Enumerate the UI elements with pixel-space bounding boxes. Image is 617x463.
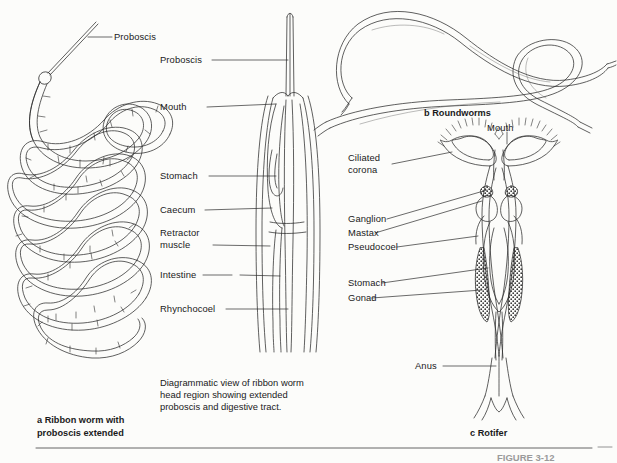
label-rotifer-pseudocoel: Pseudocoel <box>348 241 398 252</box>
label-rotifer-ciliated: Ciliated <box>348 152 380 163</box>
label-head-caecum: Caecum <box>160 204 196 215</box>
figure-artwork <box>0 0 617 463</box>
label-rotifer-corona: corona <box>348 164 377 175</box>
head-region-leaders <box>203 60 288 309</box>
ribbon-worm-drawing <box>8 22 173 358</box>
label-a-proboscis: Proboscis <box>114 31 156 42</box>
caption-head-diagram-line2: head region showing extended <box>160 389 288 401</box>
caption-panel-c: c Rotifer <box>470 427 507 439</box>
label-head-rhynchocoel: Rhynchocoel <box>160 303 215 314</box>
caption-panel-a-line2: proboscis extended <box>37 427 124 439</box>
label-rotifer-gonad: Gonad <box>348 292 377 303</box>
label-head-mouth: Mouth <box>160 101 187 112</box>
label-head-intestine: Intestine <box>160 269 196 280</box>
label-rotifer-ganglion: Ganglion <box>348 213 386 224</box>
label-head-retractor-muscle: muscle <box>160 239 190 250</box>
caption-head-diagram-line3: proboscis and digestive tract. <box>160 401 281 413</box>
label-rotifer-anus: Anus <box>415 360 437 371</box>
caption-panel-b: b Roundworms <box>424 107 491 119</box>
label-rotifer-mouth: Mouth <box>487 122 514 133</box>
figure-plate: Proboscis Proboscis Mouth Stomach Caecum… <box>0 0 617 463</box>
figure-number: FIGURE 3-12 <box>497 452 555 463</box>
caption-panel-a-line1: a Ribbon worm with <box>37 414 124 426</box>
label-rotifer-mastax: Mastax <box>348 227 379 238</box>
head-region-diagram <box>256 13 320 352</box>
label-head-stomach: Stomach <box>160 170 198 181</box>
rotifer-drawing <box>438 118 560 420</box>
label-head-proboscis: Proboscis <box>160 54 202 65</box>
label-head-retractor: Retractor <box>160 227 199 238</box>
label-rotifer-stomach: Stomach <box>348 277 386 288</box>
caption-head-diagram-line1: Diagrammatic view of ribbon worm <box>160 377 304 389</box>
